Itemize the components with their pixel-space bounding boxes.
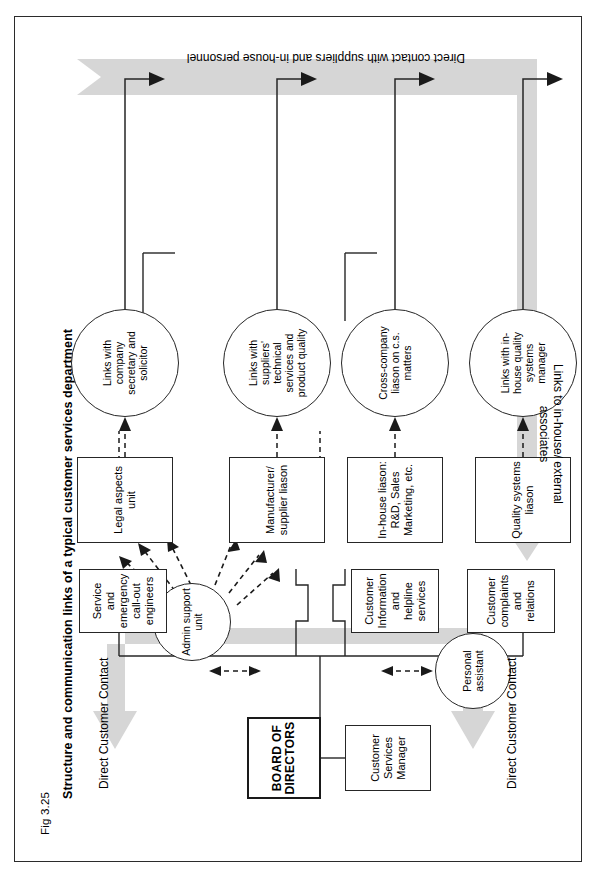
node-customer-services-manager[interactable]: Customer Services Manager [345,725,431,791]
label-direct-customer-contact-top: Direct Customer Contact [97,658,111,789]
node-customer-complaints[interactable]: Customer complaints and relations [467,569,555,633]
label-direct-contact-suppliers: Direct contact with suppliers and in-hou… [187,51,465,65]
node-manufacturer-supplier-liason[interactable]: Manufacturer/ supplier liason [229,457,325,543]
node-service-engineers[interactable]: Service and emergency call-out engineers [79,569,167,633]
node-legal-aspects-unit[interactable]: Legal aspects unit [77,457,173,543]
node-board-of-directors[interactable]: BOARD OF DIRECTORS [247,717,321,799]
scanned-page: Fig 3.25 Structure and communication lin… [0,0,598,876]
label-direct-customer-contact-bottom: Direct Customer Contact [505,658,519,789]
node-customer-information[interactable]: Customer Information and helpline servic… [351,569,439,633]
node-links-suppliers-technical[interactable]: Links with suppliers' technical services… [223,309,331,417]
node-in-house-liason[interactable]: In-house liason: R&D, Sales Marketing, e… [347,457,443,543]
diagram-canvas: Fig 3.25 Structure and communication lin… [0,0,598,876]
right-band-arrowheads [149,72,563,86]
dash-arrowheads [119,417,529,431]
figure-frame: Fig 3.25 Structure and communication lin… [14,16,582,862]
circle-to-right-band [125,79,551,309]
node-cross-company-liason[interactable]: Cross-company liason on c.s. matters [341,309,449,417]
node-links-company-secretary[interactable]: Links with company secretary and solicit… [71,309,179,417]
node-personal-assistant[interactable]: Personal assistant [435,633,511,709]
label-links-in-house-external: Links to in-house/ external associates [537,359,565,509]
